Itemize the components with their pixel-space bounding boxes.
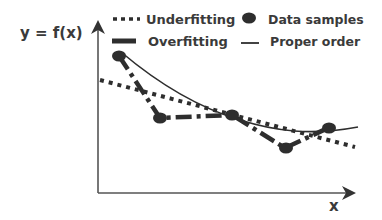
legend: Underfitting Overfitting Data samples Pr…	[112, 12, 364, 49]
data-point	[153, 113, 167, 124]
legend-underfitting: Underfitting	[146, 12, 235, 27]
y-axis-label: y = f(x)	[20, 24, 83, 42]
x-axis-label: x	[329, 197, 339, 215]
data-point	[322, 123, 336, 134]
overfitting-line	[119, 56, 328, 148]
data-samples-legend-icon	[242, 13, 256, 24]
data-point	[112, 51, 126, 62]
fitting-diagram: y = f(x) x Underfitting Overfitting Data…	[0, 0, 382, 220]
data-samples	[112, 51, 336, 154]
legend-data-samples: Data samples	[268, 12, 364, 27]
data-point	[279, 143, 293, 154]
legend-overfitting: Overfitting	[148, 34, 228, 49]
legend-proper-order: Proper order	[270, 34, 361, 49]
data-point	[225, 110, 239, 121]
